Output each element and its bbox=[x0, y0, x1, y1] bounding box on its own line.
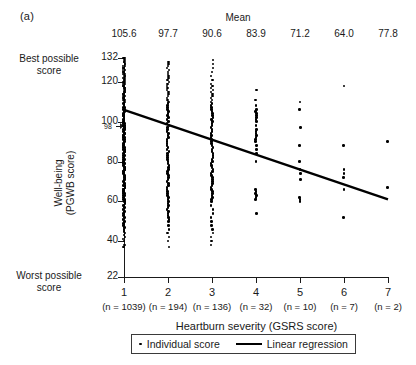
scatter-point bbox=[343, 188, 346, 191]
scatter-point bbox=[210, 75, 213, 78]
x-axis-tick-label: 2 bbox=[148, 286, 188, 298]
scatter-point bbox=[299, 168, 302, 171]
scatter-point bbox=[212, 67, 215, 70]
best-score-note: Best possible score bbox=[10, 53, 88, 77]
y-axis-title-rotated: Well-being (PGWB score) bbox=[53, 151, 77, 215]
scatter-point bbox=[212, 212, 215, 215]
scatter-point bbox=[124, 236, 127, 239]
scatter-point bbox=[211, 79, 214, 82]
scatter-point bbox=[255, 120, 258, 123]
scatter-point bbox=[299, 172, 302, 175]
scatter-point bbox=[298, 108, 301, 111]
scatter-point bbox=[255, 104, 258, 107]
reference-marker-label: 98 bbox=[104, 123, 112, 130]
scatter-point bbox=[299, 178, 302, 181]
sample-size-label: (n = 2) bbox=[362, 301, 414, 312]
scatter-point bbox=[343, 172, 346, 175]
scatter-point bbox=[254, 99, 257, 102]
legend-item-linear-regression: Linear regression bbox=[236, 338, 348, 350]
scatter-point bbox=[255, 148, 258, 151]
scatter-point bbox=[255, 160, 258, 163]
x-axis-title: Heartburn severity (GSRS score) bbox=[124, 320, 389, 332]
x-axis-tick-label: 1 bbox=[104, 286, 144, 298]
scatter-point bbox=[343, 85, 346, 88]
scatter-point bbox=[167, 224, 170, 227]
scatter-point bbox=[210, 216, 213, 219]
scatter-point bbox=[212, 208, 215, 211]
mean-value: 97.7 bbox=[146, 28, 190, 39]
scatter-point bbox=[211, 228, 214, 231]
y-axis-tick-label: 132 bbox=[88, 51, 118, 62]
x-axis-tick-label: 4 bbox=[236, 286, 276, 298]
scatter-point bbox=[298, 160, 301, 163]
y-axis-tick-label: 120 bbox=[88, 75, 118, 86]
scatter-point bbox=[342, 216, 345, 219]
mean-value: 71.2 bbox=[278, 28, 322, 39]
x-axis-tick bbox=[344, 277, 345, 283]
y-axis-tick-label: 80 bbox=[88, 155, 118, 166]
scatter-point bbox=[298, 144, 301, 147]
mean-header-text: Mean bbox=[225, 12, 250, 23]
x-axis-tick bbox=[168, 277, 169, 283]
mean-header-title: Mean bbox=[0, 12, 416, 23]
scatter-point bbox=[342, 144, 345, 147]
figure-panel-a: (a) Mean 105.697.790.683.971.264.077.8 B… bbox=[0, 0, 416, 365]
scatter-point bbox=[343, 168, 346, 171]
scatter-point bbox=[212, 59, 215, 62]
x-axis-tick bbox=[124, 277, 125, 283]
scatter-point bbox=[386, 186, 389, 189]
scatter-point bbox=[212, 63, 215, 66]
scatter-point bbox=[255, 124, 258, 127]
y-axis-title-line2: (PGWB score) bbox=[65, 151, 77, 215]
legend-line-icon bbox=[236, 343, 262, 345]
x-axis-tick bbox=[212, 277, 213, 283]
x-axis-tick-label: 3 bbox=[192, 286, 232, 298]
scatter-point bbox=[210, 220, 213, 223]
scatter-point bbox=[254, 198, 257, 201]
y-axis-title-line1: Well-being bbox=[53, 151, 65, 215]
scatter-point bbox=[210, 204, 213, 207]
legend-label-individual-score: Individual score bbox=[147, 338, 220, 350]
mean-value: 64.0 bbox=[322, 28, 366, 39]
scatter-point bbox=[210, 200, 213, 203]
x-axis-tick-label: 7 bbox=[368, 286, 408, 298]
scatter-point bbox=[210, 236, 213, 239]
y-axis-tick-label: 40 bbox=[88, 234, 118, 245]
scatter-point bbox=[255, 152, 258, 155]
legend-label-linear-regression: Linear regression bbox=[267, 338, 348, 350]
scatter-point bbox=[166, 232, 169, 235]
mean-value: 105.6 bbox=[102, 28, 146, 39]
scatter-point bbox=[210, 244, 213, 247]
scatter-point bbox=[386, 140, 389, 143]
scatter-point bbox=[255, 144, 258, 147]
mean-value: 83.9 bbox=[234, 28, 278, 39]
scatter-point bbox=[299, 126, 302, 129]
scatter-point bbox=[167, 220, 170, 223]
scatter-point bbox=[168, 236, 171, 239]
y-axis-title: Well-being (PGWB score) bbox=[52, 133, 78, 233]
scatter-point bbox=[168, 228, 171, 231]
mean-value: 77.8 bbox=[366, 28, 410, 39]
scatter-point bbox=[255, 212, 258, 215]
y-axis-tick-label: 100 bbox=[88, 115, 118, 126]
x-axis-tick-label: 6 bbox=[324, 286, 364, 298]
scatter-point bbox=[212, 232, 215, 235]
x-axis-tick bbox=[388, 277, 389, 283]
scatter-point bbox=[254, 140, 257, 143]
scatter-point bbox=[299, 200, 302, 203]
mean-value: 90.6 bbox=[190, 28, 234, 39]
scatter-point bbox=[212, 89, 215, 92]
x-axis-tick bbox=[256, 277, 257, 283]
scatter-point bbox=[342, 176, 345, 179]
scatter-point bbox=[168, 246, 171, 249]
scatter-point bbox=[211, 71, 214, 74]
scatter-point bbox=[122, 246, 125, 249]
legend-dot-icon bbox=[139, 343, 142, 346]
scatter-point bbox=[210, 224, 213, 227]
y-axis-tick-label: 60 bbox=[88, 194, 118, 205]
x-axis-tick bbox=[300, 277, 301, 283]
plot-area bbox=[124, 58, 388, 277]
x-axis-tick-label: 5 bbox=[280, 286, 320, 298]
scatter-point bbox=[255, 89, 258, 92]
scatter-point bbox=[123, 240, 126, 243]
